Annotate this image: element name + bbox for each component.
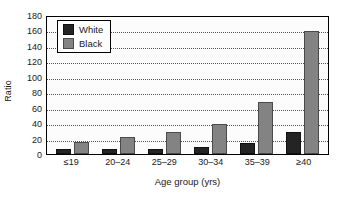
legend-label: Black (79, 39, 102, 49)
bar-black-1[interactable] (120, 137, 135, 154)
bar-white-1[interactable] (102, 149, 117, 154)
y-tick-label: 140 (27, 42, 42, 51)
chart-legend: WhiteBlack (57, 20, 111, 53)
y-tick-label: 100 (27, 73, 42, 82)
bar-group (234, 17, 280, 154)
legend-swatch-icon (63, 24, 74, 35)
x-axis-title: Age group (yrs) (46, 176, 329, 187)
y-tick-label: 40 (32, 120, 42, 129)
bar-black-3[interactable] (212, 124, 227, 154)
bar-group (188, 17, 234, 154)
bar-black-4[interactable] (258, 102, 273, 155)
y-tick-label: 20 (32, 135, 42, 144)
y-axis-tick-labels: 020406080100120140160180 (14, 11, 44, 155)
bar-chart: Ratio 020406080100120140160180 WhiteBlac… (0, 0, 338, 197)
y-tick-label: 180 (27, 12, 42, 21)
bar-black-0[interactable] (74, 142, 89, 154)
legend-swatch-icon (63, 38, 74, 49)
bar-white-3[interactable] (194, 147, 209, 154)
bar-black-2[interactable] (166, 132, 181, 154)
x-axis-tick-labels: ≤1920–2425–2930–3435–39≥40 (46, 157, 329, 168)
x-tick-label: 25–29 (141, 157, 188, 168)
y-tick-label: 120 (27, 58, 42, 67)
y-tick-label: 160 (27, 27, 42, 36)
y-tick-label: 0 (37, 151, 42, 160)
x-tick-label: 30–34 (188, 157, 235, 168)
bar-group (280, 17, 326, 154)
legend-item-black[interactable]: Black (63, 38, 103, 49)
bar-white-5[interactable] (286, 132, 301, 154)
x-tick-label: ≤19 (48, 157, 95, 168)
bar-white-2[interactable] (148, 149, 163, 154)
x-tick-label: ≥40 (281, 157, 328, 168)
x-tick-label: 20–24 (95, 157, 142, 168)
bar-group (141, 17, 187, 154)
bar-white-4[interactable] (240, 143, 255, 154)
bar-white-0[interactable] (56, 149, 71, 154)
y-tick-label: 60 (32, 104, 42, 113)
y-tick-label: 80 (32, 89, 42, 98)
legend-item-white[interactable]: White (63, 24, 103, 35)
y-axis-title-text: Ratio (3, 80, 13, 102)
legend-label: White (79, 25, 103, 35)
bar-black-5[interactable] (304, 31, 319, 154)
x-tick-label: 35–39 (234, 157, 281, 168)
